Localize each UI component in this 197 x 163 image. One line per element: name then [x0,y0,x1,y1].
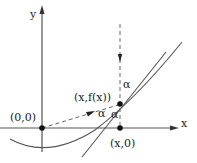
foot-point-label: (x,0) [110,137,135,150]
curve-point-dot [117,101,123,107]
x-axis-arrow-icon [170,126,179,131]
down-arrow-icon [118,54,122,62]
origin-ray-dashed [42,105,118,128]
diagram-canvas: y x (0,0) (x,f(x)) (x,0) α α α [0,0,197,163]
y-axis-label: y [29,8,37,21]
origin-dot [39,125,45,131]
alpha-top-label: α [123,78,131,91]
x-axis [0,126,179,131]
alpha-left-label: α [98,107,106,120]
origin-label: (0,0) [10,111,36,124]
alpha-bottom-label: α [111,108,119,121]
ray-arrow-icon [86,111,95,117]
curve-point-label: (x,f(x)) [74,91,111,104]
foot-point-dot [117,125,123,131]
y-axis-arrow-icon [40,5,45,14]
x-axis-label: x [181,117,188,130]
